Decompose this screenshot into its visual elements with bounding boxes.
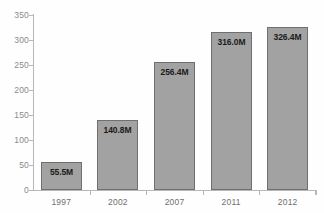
bar-data-label: 55.5M	[50, 167, 73, 178]
x-axis-tick-mark	[146, 190, 147, 195]
bar-data-label: 140.8M	[104, 125, 132, 136]
y-axis-tick-label: 150	[14, 109, 29, 121]
y-axis-tick-label: 250	[14, 59, 29, 71]
y-axis-tick-mark	[29, 90, 33, 91]
y-axis-tick: 50	[0, 159, 38, 171]
x-axis-tick-mark	[203, 190, 204, 195]
y-axis-tick: 350	[0, 9, 38, 21]
x-axis-category-label: 2011	[203, 196, 260, 208]
x-axis-category-label: 1997	[33, 196, 90, 208]
y-axis-tick-mark	[29, 15, 33, 16]
bar: 140.8M	[97, 120, 138, 190]
x-axis-tick-mark	[90, 190, 91, 195]
y-axis-tick-label: 100	[14, 134, 29, 146]
bar: 316.0M	[211, 32, 252, 190]
x-axis-tick-mark	[316, 190, 317, 195]
y-axis-tick: 250	[0, 59, 38, 71]
bar-data-label: 316.0M	[218, 37, 246, 48]
y-axis-tick-label: 50	[19, 159, 29, 171]
x-axis-line	[33, 190, 316, 191]
y-axis-tick-mark	[29, 140, 33, 141]
y-axis-tick-label: 350	[14, 9, 29, 21]
x-axis-category-label: 2002	[90, 196, 147, 208]
x-axis-category-label: 2007	[146, 196, 203, 208]
y-axis-tick-mark	[29, 190, 33, 191]
bar: 55.5M	[41, 162, 82, 190]
y-axis-tick: 150	[0, 109, 38, 121]
bar: 256.4M	[154, 62, 195, 190]
bar-data-label: 256.4M	[161, 67, 189, 78]
y-axis-tick-label: 300	[14, 34, 29, 46]
y-axis-tick: 0	[0, 184, 38, 196]
y-axis-tick-mark	[29, 65, 33, 66]
y-axis-tick-mark	[29, 40, 33, 41]
bar: 326.4M	[267, 27, 308, 190]
y-axis-tick-mark	[29, 165, 33, 166]
bar-data-label: 326.4M	[274, 32, 302, 43]
y-axis-tick: 100	[0, 134, 38, 146]
bar-chart: 050100150200250300350 55.5M140.8M256.4M3…	[0, 0, 324, 213]
y-axis-tick: 200	[0, 84, 38, 96]
y-axis-tick-mark	[29, 115, 33, 116]
y-axis-tick: 300	[0, 34, 38, 46]
y-axis-tick-label: 200	[14, 84, 29, 96]
x-axis-tick-mark	[259, 190, 260, 195]
x-axis-category-label: 2012	[259, 196, 316, 208]
